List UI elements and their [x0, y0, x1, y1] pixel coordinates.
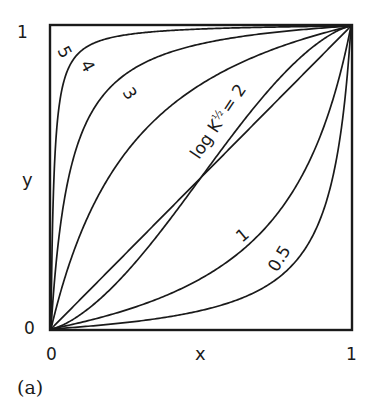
isotherm-chart: 1 0 0 1 x y 5 4 3 log K½= 2 1 0.5	[0, 0, 372, 420]
curve-label-2-eq: = 2	[217, 80, 251, 116]
x-tick-0: 0	[46, 344, 57, 364]
curve-label-0.5: 0.5	[263, 242, 294, 276]
curve-label-4: 4	[76, 56, 99, 75]
panel-label: (a)	[17, 376, 43, 398]
curve-label-5: 5	[53, 42, 76, 61]
x-axis-label: x	[195, 343, 206, 364]
y-axis-label: y	[22, 169, 33, 190]
curve-diagonal	[51, 26, 351, 329]
curve-label-3: 3	[119, 84, 142, 104]
x-tick-1: 1	[346, 344, 357, 364]
curve-group	[51, 26, 351, 329]
y-tick-0: 0	[24, 318, 35, 338]
curve-label-2: log K½= 2	[186, 80, 250, 162]
svg-text:log K½= 2: log K½= 2	[186, 80, 250, 162]
y-tick-1: 1	[17, 22, 28, 42]
